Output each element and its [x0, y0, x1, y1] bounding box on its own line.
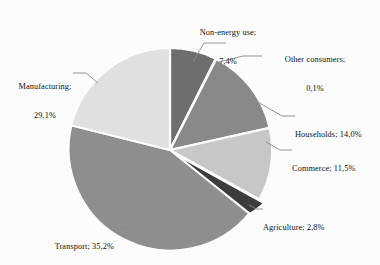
- slice-label-other-consumers-line1: Other consumers;: [256, 55, 374, 65]
- slice-label-other-consumers: Other consumers; 0,1%: [256, 35, 374, 113]
- slice-label-commerce: Commerce; 11,5%: [292, 144, 380, 193]
- slice-label-agriculture-line1: Agriculture; 2,8%: [263, 223, 361, 233]
- slice-label-other-consumers-line2: 0,1%: [256, 84, 374, 94]
- slice-label-manufacturing: Manufacturing; 29,1%: [6, 62, 84, 140]
- slice-label-households-line1: Households; 14,0%: [295, 130, 380, 140]
- slice-label-transport: Transport; 35,2%: [12, 222, 114, 265]
- slice-label-agriculture: Agriculture; 2,8%: [263, 203, 361, 252]
- slice-label-commerce-line1: Commerce; 11,5%: [292, 164, 380, 174]
- slice-label-manufacturing-line1: Manufacturing;: [6, 82, 84, 92]
- pie-chart-figure: Non-energy use; 7,4% Other consumers; 0,…: [0, 0, 380, 265]
- slice-label-transport-line1: Transport; 35,2%: [12, 242, 114, 252]
- slice-label-manufacturing-line2: 29,1%: [6, 111, 84, 121]
